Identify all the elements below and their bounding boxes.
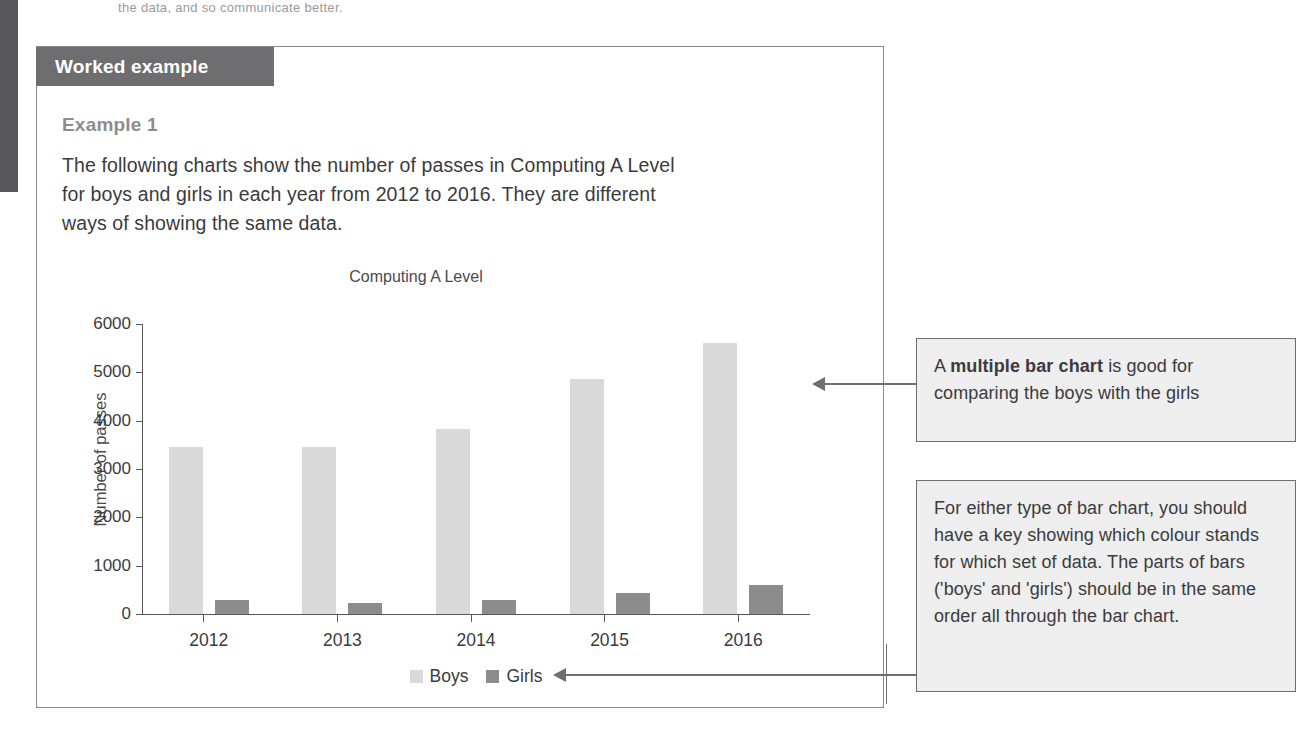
bar-girls-2014	[482, 600, 516, 614]
chart-legend: BoysGirls	[142, 666, 810, 687]
callout-1-connector-line	[825, 383, 917, 385]
x-axis-line	[142, 614, 810, 615]
x-axis-tick	[471, 614, 472, 622]
bar-boys-2015	[570, 379, 604, 614]
bar-girls-2016	[749, 585, 783, 614]
callout-1-arrow-icon	[812, 377, 825, 391]
y-axis-tick	[136, 324, 143, 325]
y-axis-tick-label: 3000	[93, 459, 131, 479]
x-axis-tick	[604, 614, 605, 622]
chart-title: Computing A Level	[46, 268, 786, 286]
legend-label-girls: Girls	[506, 666, 542, 687]
x-axis-tick-label-2014: 2014	[457, 630, 496, 651]
page-margin-strip	[0, 0, 18, 192]
callout-1-text-bold: multiple bar chart	[950, 356, 1103, 376]
bar-boys-2012	[169, 447, 203, 614]
x-axis-tick-label-2012: 2012	[189, 630, 228, 651]
x-axis-tick-label-2016: 2016	[724, 630, 763, 651]
x-axis-tick	[337, 614, 338, 622]
callout-2-text: For either type of bar chart, you should…	[934, 498, 1259, 626]
y-axis-tick	[136, 421, 143, 422]
legend-label-boys: Boys	[430, 666, 469, 687]
bar-boys-2016	[703, 343, 737, 614]
y-axis-tick	[136, 517, 143, 518]
callout-2-connector-line	[566, 674, 917, 676]
y-axis-tick-label: 5000	[93, 362, 131, 382]
callout-1-text-before: A	[934, 356, 950, 376]
legend-swatch-boys-icon	[410, 670, 423, 683]
x-axis-tick-label-2015: 2015	[590, 630, 629, 651]
callout-multiple-bar-chart: A multiple bar chart is good for compari…	[916, 338, 1296, 442]
y-axis-tick-label: 1000	[93, 556, 131, 576]
plot-area: 6000500040003000200010000201220132014201…	[142, 324, 810, 614]
callout-key-order: For either type of bar chart, you should…	[916, 480, 1296, 692]
y-axis-tick	[136, 614, 143, 615]
y-axis-tick	[136, 372, 143, 373]
y-axis-tick	[136, 469, 143, 470]
y-axis-tick-label: 2000	[93, 507, 131, 527]
x-axis-tick	[203, 614, 204, 622]
y-axis-tick-label: 6000	[93, 314, 131, 334]
callout-2-connector-stub	[886, 644, 887, 704]
page-root: the data, and so communicate better. Wor…	[0, 0, 1305, 740]
example-title: Example 1	[62, 114, 158, 136]
bar-boys-2014	[436, 429, 470, 614]
bar-girls-2015	[616, 593, 650, 614]
top-text-fragment: the data, and so communicate better.	[118, 0, 448, 14]
bar-girls-2013	[348, 603, 382, 614]
bar-chart: Computing A Level Number of passes 60005…	[46, 268, 846, 688]
y-axis-tick	[136, 566, 143, 567]
callout-2-arrow-icon	[553, 668, 566, 682]
y-axis-tick-label: 0	[122, 604, 131, 624]
worked-example-header: Worked example	[36, 47, 274, 86]
bar-boys-2013	[302, 447, 336, 614]
example-intro-text: The following charts show the number of …	[62, 151, 702, 238]
legend-item-girls: Girls	[486, 666, 542, 687]
x-axis-tick	[738, 614, 739, 622]
bar-girls-2012	[215, 600, 249, 614]
x-axis-tick-label-2013: 2013	[323, 630, 362, 651]
legend-item-boys: Boys	[410, 666, 469, 687]
y-axis-tick-label: 4000	[93, 411, 131, 431]
legend-swatch-girls-icon	[486, 670, 499, 683]
